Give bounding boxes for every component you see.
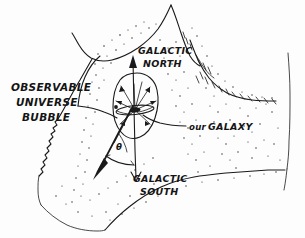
galactic-south-line2: SOUTH: [140, 186, 179, 197]
sketch-page: OBSERVABLE UNIVERSE BUBBLE GALACTIC NORT…: [0, 0, 305, 238]
region-outline-right-edge-lower: [284, 169, 287, 190]
bubble-leader-line: [78, 106, 117, 118]
tilted-axis-arrowhead: [93, 158, 108, 180]
label-galactic-south: GALACTIC SOUTH: [133, 173, 188, 197]
tilted-axis: [93, 106, 133, 180]
region-notch-detail: [196, 55, 214, 78]
galactic-north-arrowhead: [129, 55, 137, 68]
our-galaxy-leader-line: [143, 115, 186, 126]
galactic-north-line1: GALACTIC: [138, 45, 193, 56]
observable-universe-line3: BUBBLE: [22, 111, 71, 123]
galactic-south-line1: GALACTIC: [133, 173, 188, 184]
label-observable-universe-bubble: OBSERVABLE UNIVERSE BUBBLE: [11, 81, 92, 123]
angle-symbol-label: θ: [116, 142, 122, 152]
galactic-north-line2: NORTH: [143, 58, 182, 69]
label-our-galaxy: our GALAXY: [189, 121, 253, 132]
our-galaxy-lower: our: [189, 122, 207, 132]
sketch-canvas: OBSERVABLE UNIVERSE BUBBLE GALACTIC NORT…: [0, 0, 305, 238]
region-outline-right-shoulder: [190, 40, 276, 101]
region-outline-lower-left: [38, 176, 41, 205]
galactic-axis-line: [133, 60, 136, 178]
galaxy-disk: [114, 104, 154, 117]
stipple-hatching: [183, 32, 276, 104]
observable-universe-line2: UNIVERSE: [16, 96, 78, 108]
our-galaxy-upper: GALAXY: [208, 121, 253, 132]
label-galactic-north: GALACTIC NORTH: [138, 45, 193, 69]
observable-universe-line1: OBSERVABLE: [11, 81, 92, 93]
region-outline-bottom-left: [41, 205, 105, 231]
stippled-cosmic-region: [38, 5, 290, 231]
angle-arc-curve: [106, 156, 134, 165]
region-outline-right-edge: [287, 53, 290, 169]
region-outline-upper-right: [171, 5, 200, 66]
region-outline-bottom-wave: [105, 170, 285, 230]
galaxy-disk-knot: [114, 105, 118, 109]
